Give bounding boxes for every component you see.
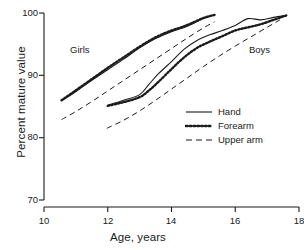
legend-label-hand: Hand [218, 106, 241, 117]
x-axis-title: Age, years [110, 231, 240, 243]
x-axis [44, 207, 299, 212]
group-label-boys: Boys [249, 44, 270, 55]
y-tick-90: 90 [22, 69, 38, 80]
x-tick-10: 10 [34, 215, 54, 226]
x-tick-16: 16 [225, 215, 245, 226]
y-axis [39, 13, 44, 200]
y-tick-70: 70 [22, 194, 38, 205]
x-tick-12: 12 [98, 215, 118, 226]
series-line-boys-forearm [108, 15, 287, 105]
y-axis-title: Percent mature value [15, 37, 27, 167]
chart-plot-area [0, 0, 304, 250]
series-line-girls-hand [62, 15, 215, 101]
legend-label-forearm: Forearm [218, 120, 254, 131]
y-tick-80: 80 [22, 131, 38, 142]
legend-label-upper-arm: Upper arm [218, 134, 263, 145]
x-tick-18: 18 [289, 215, 304, 226]
data-series-layer [62, 15, 287, 128]
series-line-girls-upper-arm [62, 22, 215, 120]
series-line-girls-forearm [62, 15, 215, 100]
chart-figure: Percent mature value Age, years 100 90 8… [0, 0, 304, 250]
series-line-boys-hand [108, 15, 287, 105]
legend-swatches [186, 112, 212, 140]
group-label-girls: Girls [70, 44, 90, 55]
x-tick-14: 14 [161, 215, 181, 226]
y-tick-100: 100 [22, 7, 38, 18]
